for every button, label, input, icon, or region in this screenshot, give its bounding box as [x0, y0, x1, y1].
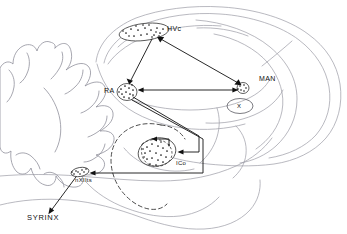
man-label: MAN: [259, 75, 276, 82]
hvc-label: HVc: [167, 25, 182, 32]
nxiits-label: nXIIts: [75, 177, 92, 183]
x-label: X: [237, 103, 241, 109]
brain-diagram: HVc RA MAN: [0, 0, 347, 234]
ra-label: RA: [104, 87, 115, 94]
ico-label: ICo: [176, 160, 187, 166]
syrinx-group[interactable]: SYRINX: [27, 213, 59, 222]
figure-root: HVc RA MAN: [0, 0, 347, 234]
syrinx-label: SYRINX: [27, 213, 59, 222]
